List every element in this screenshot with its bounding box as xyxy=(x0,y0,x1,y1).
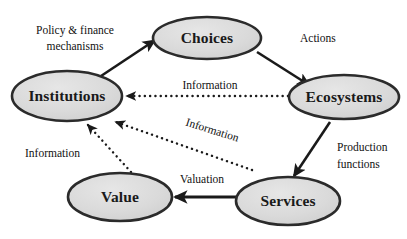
edge-label-production-line1: Production xyxy=(337,141,388,153)
edge-label-information-diagonal: Information xyxy=(184,116,240,144)
diagram-canvas: Institutions Choices Ecosystems Services… xyxy=(0,0,407,239)
edge-label-valuation: Valuation xyxy=(180,173,224,185)
edge-label-information-top: Information xyxy=(183,79,238,91)
edge-institutions-to-choices xyxy=(101,41,155,77)
node-ecosystems[interactable]: Ecosystems xyxy=(289,75,399,119)
edge-ecosystems-to-services xyxy=(294,122,330,176)
edge-value-to-institutions xyxy=(88,125,131,172)
node-label-ecosystems: Ecosystems xyxy=(306,88,383,105)
diagram-svg: Institutions Choices Ecosystems Services… xyxy=(0,0,407,239)
edge-line-institutions-to-choices xyxy=(101,41,155,77)
node-value[interactable]: Value xyxy=(68,173,172,221)
edge-choices-to-ecosystems xyxy=(257,52,309,85)
node-label-value: Value xyxy=(101,188,139,205)
edge-label-production-line2: functions xyxy=(337,158,380,170)
edge-label-actions: Actions xyxy=(300,32,336,44)
node-institutions[interactable]: Institutions xyxy=(12,71,122,121)
node-label-institutions: Institutions xyxy=(28,87,105,104)
node-services[interactable]: Services xyxy=(236,177,340,225)
node-label-choices: Choices xyxy=(181,29,233,46)
edge-line-choices-to-ecosystems xyxy=(257,52,309,85)
edge-label-policy-line2: mechanisms xyxy=(47,40,104,52)
node-choices[interactable]: Choices xyxy=(153,17,261,59)
edge-line-value-to-institutions xyxy=(88,125,131,172)
edge-label-information-left: Information xyxy=(25,147,80,159)
edge-label-policy-line1: Policy & finance xyxy=(36,24,114,37)
node-label-services: Services xyxy=(260,192,315,209)
edge-line-ecosystems-to-services xyxy=(294,122,330,176)
